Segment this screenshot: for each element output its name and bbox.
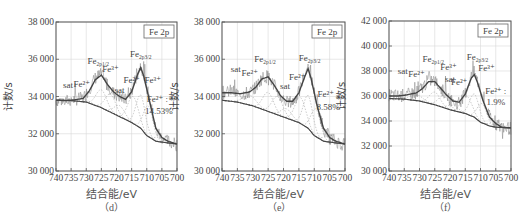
peak-annotation: Fe³⁺ — [145, 75, 162, 85]
x-tick-label: 735 — [397, 173, 412, 183]
peak-annotation: Fe²⁺ — [241, 68, 258, 78]
y-tick-label: 42 000 — [361, 16, 387, 26]
panel-d-sublabel: （d） — [99, 199, 124, 214]
y-tick-label: 36 000 — [194, 54, 220, 64]
x-tick-label: 715 — [458, 173, 473, 183]
x-tick-label: 700 — [170, 173, 185, 183]
panel-f: 74073573072572071571070570030 00032 0003… — [335, 16, 518, 183]
fe-2p-label: Fe 2p — [317, 27, 338, 37]
peak-annotation: Fe²⁺ — [73, 79, 90, 89]
peak-annotation: Fe²⁺ : — [485, 86, 506, 96]
x-tick-label: 700 — [504, 173, 519, 183]
y-tick-label: 30 000 — [194, 166, 220, 176]
peak-annotation: sat — [231, 64, 241, 74]
fe-2p-label: Fe 2p — [149, 27, 170, 37]
y-tick-label: 36 000 — [28, 54, 54, 64]
x-tick-label: 725 — [261, 173, 276, 183]
peak-annotation: Fe2p3/2 — [467, 52, 489, 63]
x-tick-label: 725 — [428, 173, 443, 183]
x-tick-label: 710 — [307, 173, 322, 183]
peak-annotation: sat — [280, 81, 290, 91]
x-tick-label: 700 — [338, 173, 353, 183]
x-tick-label: 715 — [125, 173, 140, 183]
y-tick-label: 38 000 — [28, 17, 54, 27]
peak-annotation: Fe²⁺ — [408, 69, 425, 79]
peak-annotation: Fe2p3/2 — [130, 49, 152, 60]
peak-annotation: Fe³⁺ — [478, 63, 495, 73]
y-tick-label: 32 000 — [194, 129, 220, 139]
x-tick-label: 710 — [473, 173, 488, 183]
panel-e: 74073573072572071571070570030 00032 0003… — [168, 17, 352, 183]
y-tick-label: 34 000 — [28, 92, 54, 102]
peak-annotation: Fe2p1/2 — [254, 54, 276, 65]
y-tick-label: 40 000 — [361, 41, 387, 51]
peak-annotation: Fe²⁺ — [123, 75, 140, 85]
x-tick-label: 735 — [230, 173, 245, 183]
y-tick-label: 38 000 — [194, 17, 220, 27]
y-tick-label: 32 000 — [361, 141, 387, 151]
x-tick-label: 715 — [292, 173, 307, 183]
peak-annotation: Fe²⁺ — [289, 72, 306, 82]
x-tick-label: 730 — [246, 173, 261, 183]
y-axis-label: 计数/s — [168, 82, 180, 111]
peak-annotation: sat — [115, 85, 125, 95]
x-tick-label: 705 — [155, 173, 170, 183]
y-tick-label: 32 000 — [28, 129, 54, 139]
peak-annotation: sat — [398, 66, 408, 76]
peak-annotation: Fe³⁺ — [440, 62, 457, 72]
x-tick-label: 705 — [489, 173, 504, 183]
x-tick-label: 720 — [276, 173, 291, 183]
y-tick-label: 38 000 — [361, 66, 387, 76]
peak-annotation: 1.9% — [486, 97, 505, 107]
peak-annotation: Fe²⁺ — [451, 77, 468, 87]
x-tick-label: 705 — [323, 173, 338, 183]
x-tick-label: 730 — [412, 173, 427, 183]
panel-f-sublabel: （f） — [434, 199, 457, 214]
x-tick-label: 725 — [94, 173, 109, 183]
x-tick-label: 720 — [443, 173, 458, 183]
y-axis-label: 计数/s — [2, 82, 14, 111]
y-axis-label: 计数/s — [335, 82, 347, 111]
y-tick-label: 34 000 — [194, 92, 220, 102]
x-tick-label: 735 — [64, 173, 79, 183]
panel-d: 74073573072572071571070570030 00032 0003… — [2, 17, 184, 183]
y-tick-label: 34 000 — [361, 116, 387, 126]
peak-annotation: Fe³⁺ — [102, 64, 119, 74]
x-tick-label: 730 — [79, 173, 94, 183]
y-tick-label: 30 000 — [361, 166, 387, 176]
fe-2p-label: Fe 2p — [483, 26, 504, 36]
x-tick-label: 720 — [109, 173, 124, 183]
peak-annotation: Fe²⁺ : — [147, 94, 168, 104]
x-tick-label: 710 — [140, 173, 155, 183]
y-tick-label: 30 000 — [28, 166, 54, 176]
panel-e-sublabel: （e） — [267, 199, 291, 214]
y-tick-label: 36 000 — [361, 91, 387, 101]
peak-annotation: sat — [63, 80, 73, 90]
peak-annotation: Fe2p3/2 — [299, 53, 321, 64]
